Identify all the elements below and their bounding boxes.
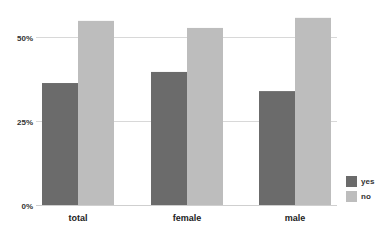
- y-axis-ticks: 0%25%50%: [17, 34, 33, 211]
- x-category-label: male: [285, 213, 306, 223]
- bar-male-yes: [259, 91, 295, 205]
- bar-total-no: [78, 21, 114, 205]
- bar-total-yes: [42, 83, 78, 205]
- x-category-label: female: [173, 213, 202, 223]
- legend-label-no: no: [361, 192, 371, 201]
- bar-female-yes: [151, 72, 187, 205]
- x-category-label: total: [69, 213, 88, 223]
- x-axis-labels: totalfemalemale: [69, 213, 306, 223]
- y-tick-label: 25%: [17, 118, 33, 127]
- legend-label-yes: yes: [361, 177, 375, 186]
- bar-male-no: [295, 18, 331, 205]
- y-tick-label: 0%: [21, 202, 33, 211]
- y-tick-label: 50%: [17, 34, 33, 43]
- legend-swatch-no: [346, 191, 357, 202]
- bar-female-no: [187, 28, 223, 205]
- legend: yesno: [346, 176, 375, 202]
- grouped-bar-chart: 0%25%50% totalfemalemale yesno: [0, 0, 391, 239]
- legend-swatch-yes: [346, 176, 357, 187]
- bars: [42, 18, 331, 205]
